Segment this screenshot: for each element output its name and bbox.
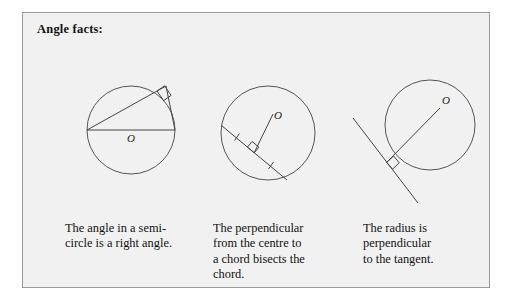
figure-semicircle-right-angle: O <box>87 86 175 174</box>
chord-left-leg <box>87 86 166 130</box>
centre-label-2: O <box>274 109 282 121</box>
radius-line <box>387 108 441 163</box>
centre-label-1: O <box>127 132 135 144</box>
circle-outline-3 <box>385 80 475 170</box>
figure-perpendicular-bisects-chord: O <box>221 86 315 180</box>
circle-outline-2 <box>221 86 315 180</box>
perpendicular-from-centre <box>254 114 273 153</box>
chord-right-leg <box>166 86 175 130</box>
circle-outline-1 <box>87 86 175 174</box>
angle-facts-panel: Angle facts: O <box>22 12 490 288</box>
right-angle-mark-2 <box>247 142 259 153</box>
caption-radius-tangent: The radius is perpendicular to the tange… <box>363 221 503 267</box>
tick-mark-left <box>235 134 240 141</box>
tangent-line <box>353 118 418 203</box>
chord-line <box>222 126 288 181</box>
centre-label-3: O <box>442 94 450 106</box>
tick-mark-right <box>269 162 274 169</box>
figure-radius-perpendicular-tangent: O <box>353 80 475 203</box>
caption-perpendicular-chord: The perpendicular from the centre to a c… <box>213 221 363 283</box>
caption-semicircle: The angle in a semi- circle is a right a… <box>65 221 215 252</box>
right-angle-mark-1 <box>157 86 171 101</box>
right-angle-mark-3 <box>387 156 400 169</box>
page-title: Angle facts: <box>37 22 103 37</box>
angle-facts-figure: Angle facts: O <box>0 0 513 305</box>
